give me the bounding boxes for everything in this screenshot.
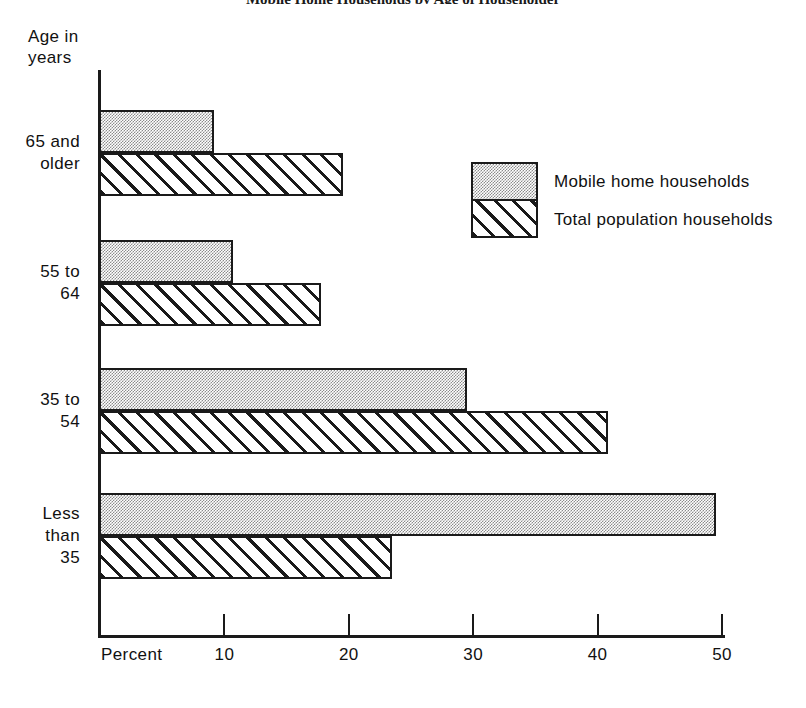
legend-label-total-population-households: Total population households bbox=[554, 210, 773, 230]
category-label: Less than 35 bbox=[42, 503, 80, 569]
bar-hatch bbox=[99, 283, 321, 326]
bar-hatch bbox=[99, 153, 343, 196]
x-axis-tick-label: 40 bbox=[588, 645, 608, 665]
cropped-figure-title: Mobile Home Households by Age of Househo… bbox=[0, 0, 806, 4]
bar-hatch bbox=[99, 411, 608, 454]
category-label: 65 and older bbox=[26, 131, 80, 175]
x-axis-tick bbox=[348, 614, 350, 635]
x-axis-tick bbox=[223, 614, 225, 635]
x-axis-tick bbox=[721, 614, 723, 635]
legend-label-mobile-home-households: Mobile home households bbox=[554, 172, 750, 192]
category-label: 55 to 64 bbox=[40, 261, 80, 305]
bar-stipple bbox=[99, 493, 716, 536]
legend-swatch-mobile-home-households bbox=[471, 162, 538, 200]
x-axis-tick bbox=[472, 614, 474, 635]
y-axis-title: Age in years bbox=[28, 26, 79, 68]
category-label: 35 to 54 bbox=[40, 389, 80, 433]
x-axis-tick-label: 30 bbox=[463, 645, 483, 665]
bar-hatch bbox=[99, 536, 392, 579]
bar-stipple bbox=[99, 240, 233, 283]
x-axis-line bbox=[98, 635, 725, 638]
bar-stipple bbox=[99, 368, 467, 411]
x-axis-tick-label: 20 bbox=[339, 645, 359, 665]
x-axis-title: Percent bbox=[101, 645, 162, 665]
x-axis-tick-label: 10 bbox=[215, 645, 235, 665]
bar-chart-figure: Mobile Home Households by Age of Househo… bbox=[0, 0, 806, 708]
legend-swatch-total-population-households bbox=[471, 200, 538, 238]
x-axis-tick-label: 50 bbox=[712, 645, 732, 665]
x-axis-tick bbox=[597, 614, 599, 635]
bar-stipple bbox=[99, 110, 214, 153]
